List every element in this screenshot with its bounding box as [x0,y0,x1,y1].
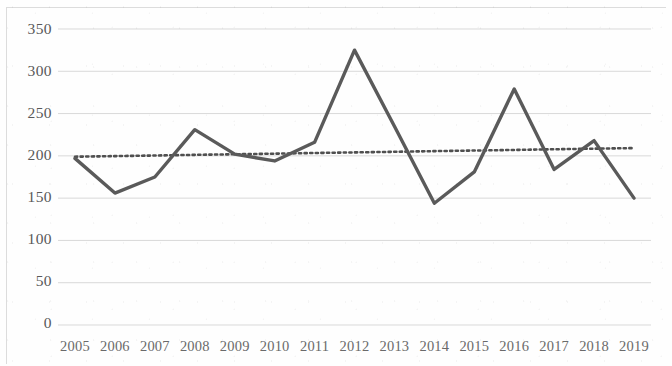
x-tick-label: 2005 [60,338,90,355]
x-tick-label: 2012 [340,338,370,355]
x-tick-label: 2008 [180,338,210,355]
x-tick-label: 2016 [499,338,529,355]
x-tick-label: 2007 [140,338,170,355]
x-tick-label: 2013 [380,338,410,355]
x-tick-label: 2010 [260,338,290,355]
x-tick-label: 2011 [300,338,329,355]
x-tick-label: 2017 [539,338,569,355]
plot-area [0,0,672,366]
value-series [75,50,634,203]
x-tick-label: 2006 [100,338,130,355]
gridlines [58,29,651,325]
x-tick-label: 2018 [579,338,609,355]
x-tick-label: 2019 [619,338,649,355]
x-tick-label: 2015 [459,338,489,355]
x-tick-label: 2009 [220,338,250,355]
x-tick-label: 2014 [419,338,449,355]
line-chart: 350 300 250 200 150 100 50 0 20052006200… [0,0,672,366]
